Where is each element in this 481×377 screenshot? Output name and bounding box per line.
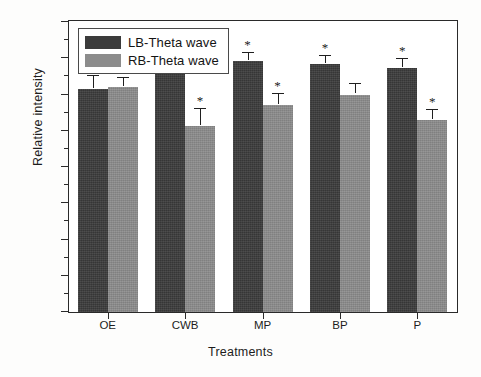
y-axis-title: Relative intensity <box>31 37 45 197</box>
bar-oe-series0[interactable] <box>78 89 108 312</box>
bar-bp-series1[interactable] <box>340 95 370 313</box>
x-axis-tick <box>185 312 186 319</box>
error-bar <box>432 109 433 119</box>
error-bar-cap <box>272 93 284 94</box>
legend: LB-Theta wave RB-Theta wave <box>78 28 229 74</box>
legend-label-lb: LB-Theta wave <box>128 35 217 50</box>
y-axis-minor-tick <box>64 220 69 221</box>
bar-p-series1[interactable] <box>417 120 447 312</box>
bar-p-series0[interactable] <box>387 68 417 312</box>
error-bar-cap <box>349 83 361 84</box>
figure-canvas: Relative intensity 0510152025303540OE**C… <box>0 0 481 377</box>
significance-marker: * <box>429 95 436 108</box>
bar-bp-series0[interactable] <box>310 64 340 312</box>
error-bar-cap <box>319 55 331 56</box>
y-axis-tick <box>61 275 69 276</box>
y-axis-tick <box>61 94 69 95</box>
legend-label-rb: RB-Theta wave <box>128 53 219 68</box>
x-axis-title: Treatments <box>0 345 481 359</box>
error-bar <box>123 77 124 86</box>
significance-marker: * <box>197 94 204 107</box>
error-bar-cap <box>396 58 408 59</box>
y-axis-minor-tick <box>64 112 69 113</box>
y-axis-minor-tick <box>64 75 69 76</box>
x-axis-tick-label: P <box>382 319 452 331</box>
error-bar <box>248 52 249 60</box>
error-bar <box>355 83 356 93</box>
y-axis-tick <box>61 202 69 203</box>
bar-mp-series1[interactable] <box>263 105 293 312</box>
bar-oe-series1[interactable] <box>108 87 138 312</box>
y-axis-minor-tick <box>64 39 69 40</box>
legend-item-lb: LB-Theta wave <box>85 33 219 51</box>
error-bar <box>325 55 326 63</box>
error-bar <box>278 93 279 105</box>
y-axis-tick <box>61 57 69 58</box>
y-axis-tick <box>61 311 69 312</box>
legend-item-rb: RB-Theta wave <box>85 51 219 69</box>
significance-marker: * <box>274 79 281 92</box>
y-axis-minor-tick <box>64 184 69 185</box>
error-bar <box>200 108 201 125</box>
y-axis-tick <box>61 166 69 167</box>
bar-mp-series0[interactable] <box>233 61 263 312</box>
error-bar-cap <box>117 77 129 78</box>
y-axis-tick <box>61 130 69 131</box>
x-axis-tick-label: OE <box>73 319 143 331</box>
error-bar-cap <box>426 109 438 110</box>
significance-marker: * <box>322 41 329 54</box>
y-axis-minor-tick <box>64 148 69 149</box>
x-axis-tick-label: CWB <box>150 319 220 331</box>
error-bar-cap <box>87 75 99 76</box>
y-axis-tick <box>61 21 69 22</box>
error-bar-cap <box>194 108 206 109</box>
bar-cwb-series1[interactable] <box>185 126 215 312</box>
x-axis-tick <box>108 312 109 319</box>
plot-area: 0510152025303540OE**CWB**MP*BP**P LB-The… <box>68 20 458 313</box>
y-axis-minor-tick <box>64 293 69 294</box>
significance-marker: * <box>399 44 406 57</box>
error-bar <box>93 75 94 89</box>
x-axis-tick <box>340 312 341 319</box>
legend-swatch-lb <box>85 36 121 49</box>
error-bar-cap <box>242 52 254 53</box>
x-axis-tick-label: MP <box>228 319 298 331</box>
significance-marker: * <box>244 38 251 51</box>
legend-swatch-rb <box>85 54 121 67</box>
x-axis-tick <box>417 312 418 319</box>
x-axis-tick <box>263 312 264 319</box>
bar-cwb-series0[interactable] <box>155 71 185 312</box>
x-axis-tick-label: BP <box>305 319 375 331</box>
y-axis-minor-tick <box>64 257 69 258</box>
error-bar <box>402 58 403 67</box>
y-axis-tick <box>61 239 69 240</box>
